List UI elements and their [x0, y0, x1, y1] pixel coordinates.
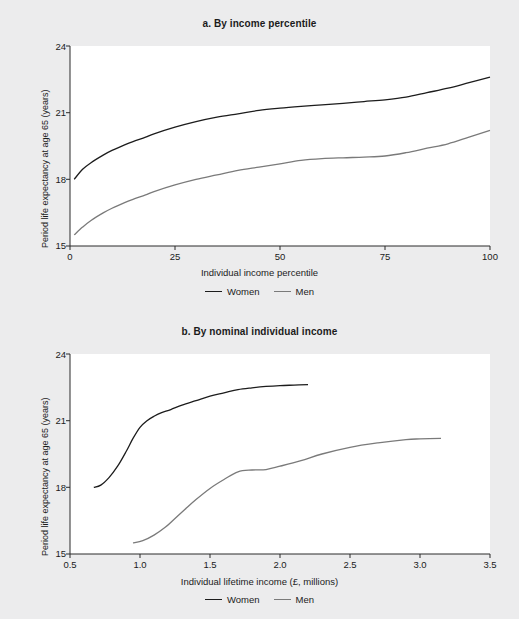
- panel-b-xtick-0_5: 0.5: [50, 559, 90, 570]
- panel-a-xtick-100: 100: [470, 251, 510, 262]
- panel-b-ytick-18: 18: [44, 482, 66, 493]
- panel-a-svg: [70, 46, 490, 246]
- panel-a-xtick-0: 0: [50, 251, 90, 262]
- panel-b-series: [94, 385, 441, 543]
- panel-b-x-axis-label: Individual lifetime income (£, millions): [0, 576, 519, 587]
- panel-b-xtick-3_0: 3.0: [400, 559, 440, 570]
- panel-b-legend-women-label: Women: [227, 594, 260, 605]
- panel-b-title: b. By nominal individual income: [0, 326, 519, 337]
- panel-a-legend-women: Women: [205, 286, 260, 297]
- panel-a-legend: Women Men: [0, 286, 519, 297]
- panel-a-xtick-75: 75: [365, 251, 405, 262]
- panel-b-legend: Women Men: [0, 594, 519, 605]
- chart-panel-a: a. By income percentile Period life expe…: [0, 0, 519, 310]
- panel-a-series: [74, 77, 490, 235]
- panel-b-ytick-24: 24: [44, 349, 66, 360]
- men-line-swatch-icon: [274, 291, 291, 292]
- panel-b-legend-women: Women: [205, 594, 260, 605]
- panel-b-legend-men: Men: [274, 594, 314, 605]
- chart-panel-b: b. By nominal individual income Period l…: [0, 310, 519, 619]
- panel-b-plot-area: [70, 354, 490, 554]
- panel-b-svg: [70, 354, 490, 554]
- panel-a-xtick-25: 25: [155, 251, 195, 262]
- panel-b-xtick-3_5: 3.5: [470, 559, 510, 570]
- figure-container: a. By income percentile Period life expe…: [0, 0, 519, 619]
- series-line-men: [133, 438, 441, 542]
- panel-a-ytick-15: 15: [44, 240, 66, 251]
- panel-a-legend-women-label: Women: [227, 286, 260, 297]
- panel-b-xtick-2_5: 2.5: [330, 559, 370, 570]
- women-line-swatch-icon: [205, 291, 222, 292]
- women-line-swatch-icon: [205, 599, 222, 600]
- panel-b-ytick-15: 15: [44, 548, 66, 559]
- panel-a-legend-men: Men: [274, 286, 314, 297]
- panel-b-xtick-1_5: 1.5: [190, 559, 230, 570]
- panel-b-xtick-2_0: 2.0: [260, 559, 300, 570]
- panel-a-ytick-24: 24: [44, 41, 66, 52]
- panel-b-xtick-1_0: 1.0: [120, 559, 160, 570]
- panel-a-x-axis-label: Individual income percentile: [0, 267, 519, 278]
- panel-b-legend-men-label: Men: [296, 594, 314, 605]
- panel-a-legend-men-label: Men: [296, 286, 314, 297]
- series-line-women: [94, 385, 308, 488]
- panel-b-axes: [66, 354, 490, 558]
- panel-a-ytick-18: 18: [44, 174, 66, 185]
- panel-b-ytick-21: 21: [44, 415, 66, 426]
- panel-a-ytick-21: 21: [44, 107, 66, 118]
- panel-a-xtick-50: 50: [260, 251, 300, 262]
- series-line-men: [74, 130, 490, 234]
- panel-a-plot-area: [70, 46, 490, 246]
- panel-a-title: a. By income percentile: [0, 18, 519, 29]
- men-line-swatch-icon: [274, 599, 291, 600]
